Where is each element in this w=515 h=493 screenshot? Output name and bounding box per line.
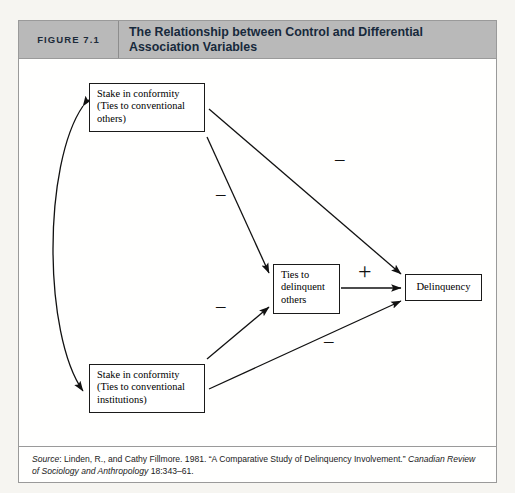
node-line: institutions)	[97, 394, 198, 406]
edge-label-middle-to-delinquency: +	[358, 259, 372, 283]
figure-header: FIGURE 7.1 The Relationship between Cont…	[19, 21, 496, 59]
node-line: Stake in conformity	[97, 88, 198, 100]
node-line: delinquent	[281, 281, 333, 293]
arrow-top-to-middle	[207, 137, 269, 273]
node-line: Stake in conformity	[97, 369, 198, 381]
edge-label-bottom-to-middle: –	[216, 296, 226, 315]
source-citation: Source: Linden, R., and Cathy Fillmore. …	[32, 454, 484, 477]
node-stake-conformity-institutions: Stake in conformity (Ties to conventiona…	[89, 364, 205, 413]
source-divider	[19, 446, 496, 447]
arrow-top-to-delinquency	[209, 109, 401, 274]
edge-label-top-to-delinquency: –	[335, 149, 345, 168]
source-label: Source	[32, 454, 59, 464]
node-line: others	[281, 294, 333, 306]
edge-label-top-to-middle: –	[216, 184, 226, 203]
edge-label-bottom-to-delinquency: –	[324, 331, 334, 350]
node-line: (Ties to conventional	[97, 100, 198, 112]
node-line: others)	[97, 113, 198, 125]
node-stake-conformity-others: Stake in conformity (Ties to conventiona…	[89, 83, 205, 132]
node-line: (Ties to conventional	[97, 381, 198, 393]
source-text-first: Linden, R., and Cathy Fillmore. 1981. “A…	[64, 454, 408, 464]
figure-container: FIGURE 7.1 The Relationship between Cont…	[18, 20, 497, 483]
source-text-second: 18:343–61.	[148, 466, 193, 476]
figure-title: The Relationship between Control and Dif…	[129, 21, 484, 58]
diagram-area: Stake in conformity (Ties to conventiona…	[19, 59, 496, 446]
node-line: Ties to	[281, 269, 333, 281]
node-delinquency: Delinquency	[405, 274, 482, 301]
header-divider	[118, 21, 119, 58]
node-ties-delinquent-others: Ties to delinquent others	[273, 264, 340, 314]
arrow-top-bottom-correlation	[53, 106, 83, 391]
figure-number: FIGURE 7.1	[19, 21, 118, 58]
arrow-bottom-to-delinquency	[209, 301, 401, 389]
